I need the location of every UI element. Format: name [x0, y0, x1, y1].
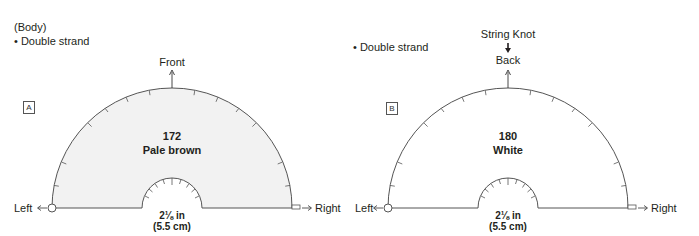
panel-a-size-cm: (5.5 cm) [153, 221, 191, 232]
panel-a-note: • Double strand [14, 35, 89, 48]
panel-a-front-label: Front [159, 56, 185, 69]
panel-b-box-label: B [386, 102, 398, 115]
panel-b-color-name: White [493, 144, 523, 157]
panel-b-size-in: 2⅛ in [495, 210, 521, 221]
panel-b-shape [374, 43, 648, 212]
panel-b-left-label: Left [355, 202, 373, 215]
panel-a-size-in: 2⅛ in [159, 210, 185, 221]
panel-a-box-label: A [23, 101, 35, 114]
panel-b-color-number: 180 [499, 130, 517, 143]
panel-a-right-label: Right [315, 202, 341, 215]
panel-a-color-name: Pale brown [143, 144, 202, 157]
panel-b-string-knot-label: String Knot [481, 28, 535, 41]
diagram-canvas [0, 0, 699, 236]
panel-a-left-label: Left [14, 202, 32, 215]
panel-a-heading: (Body) [14, 21, 46, 34]
panel-b-right-label: Right [651, 202, 677, 215]
panel-b-note: • Double strand [353, 41, 428, 54]
panel-b-size-cm: (5.5 cm) [489, 221, 527, 232]
panel-b-back-label: Back [496, 54, 520, 67]
panel-a-color-number: 172 [163, 130, 181, 143]
